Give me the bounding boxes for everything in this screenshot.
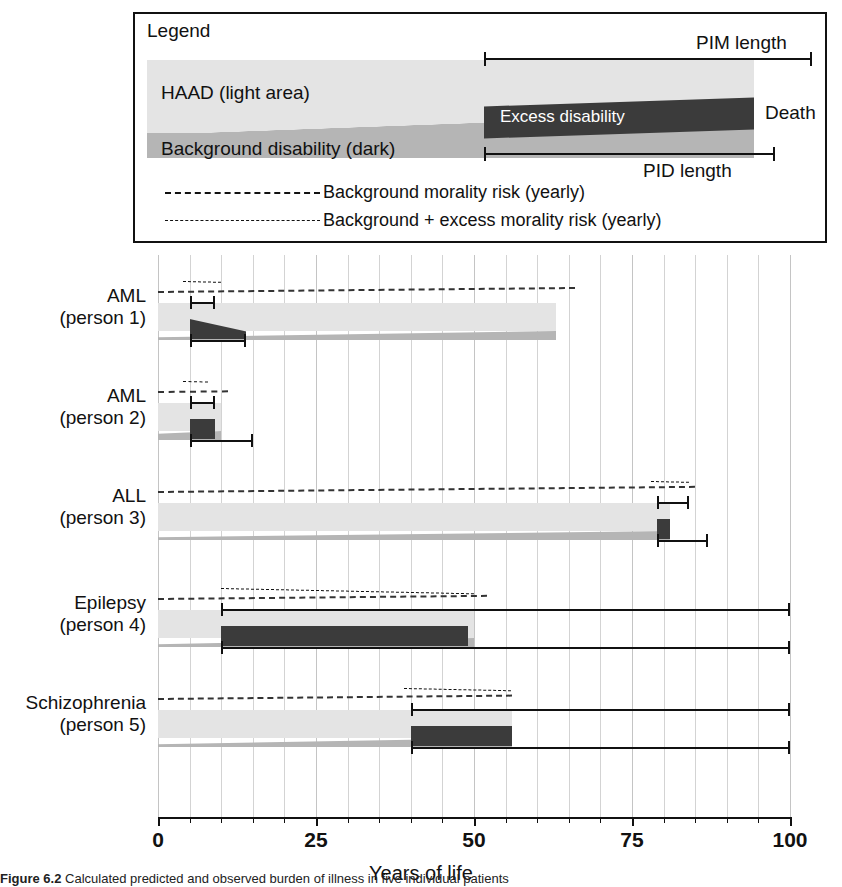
x-axis-tick	[158, 817, 160, 826]
x-axis-tick	[600, 817, 601, 823]
bracket-line	[221, 647, 790, 649]
bracket-line	[221, 609, 790, 611]
pid-length-bracket	[411, 741, 790, 754]
gridline	[790, 255, 791, 817]
bracket-line	[190, 302, 215, 304]
legend-title: Legend	[147, 20, 210, 42]
haad-band	[158, 503, 670, 531]
y-axis-label-3: ALL(person 3)	[59, 485, 146, 529]
x-axis-tick	[316, 817, 318, 826]
x-axis-tick	[411, 817, 412, 823]
x-axis-tick-label: 0	[152, 828, 164, 852]
pim-length-bracket	[657, 496, 689, 509]
pim-length-bracket	[221, 603, 790, 616]
x-axis-tick	[190, 817, 191, 823]
bracket-line	[411, 747, 790, 749]
bracket-line	[657, 540, 708, 542]
legend-death-label: Death	[765, 102, 816, 124]
x-axis-tick	[727, 817, 728, 823]
x-axis-tick	[221, 817, 222, 823]
x-axis-tick	[664, 817, 665, 823]
x-axis-tick	[253, 817, 254, 823]
pid-length-bracket	[657, 534, 708, 547]
figure-number: Figure 6.2	[0, 871, 61, 886]
x-axis-tick	[569, 817, 570, 823]
legend-background-disability-label: Background disability (dark)	[161, 138, 395, 160]
y-axis-label-2: AML(person 2)	[59, 385, 146, 429]
background-disability-band	[158, 531, 670, 540]
x-axis-tick-label: 25	[304, 828, 327, 852]
x-axis-tick	[537, 817, 538, 823]
bracket-cap-right	[213, 396, 215, 409]
bracket-line	[190, 340, 247, 342]
legend-background-risk-label: Background morality risk (yearly)	[323, 182, 585, 203]
legend-haad-label: HAAD (light area)	[161, 82, 310, 104]
x-axis-tick	[632, 817, 634, 826]
x-axis-tick-label: 100	[772, 828, 807, 852]
bracket-line	[484, 153, 775, 155]
legend-pid-length-label: PID length	[643, 160, 732, 182]
x-axis-tick	[284, 817, 285, 823]
legend-box: Legend Excess disability HAAD (light are…	[133, 12, 827, 243]
y-axis-label-line1: ALL	[112, 485, 146, 506]
legend-background-risk-line	[165, 192, 320, 194]
bracket-cap-right	[706, 534, 708, 547]
figure-caption-text: Calculated predicted and observed burden…	[65, 871, 509, 886]
total-morality-risk-line	[183, 381, 208, 383]
x-axis-tick	[348, 817, 349, 823]
background-morality-risk-line	[158, 595, 487, 600]
legend-pim-bracket	[484, 52, 812, 66]
legend-total-risk-line	[165, 220, 320, 221]
x-axis-tick	[695, 817, 696, 823]
bracket-cap-right	[251, 434, 253, 447]
background-morality-risk-line	[158, 695, 512, 700]
x-axis-tick	[474, 817, 476, 826]
bracket-cap-right	[773, 147, 775, 161]
y-axis-label-line2: (person 4)	[59, 614, 146, 636]
pim-length-bracket	[411, 703, 790, 716]
bracket-line	[657, 502, 689, 504]
plot-area	[158, 255, 790, 817]
x-axis-tick	[790, 817, 792, 826]
bracket-cap-right	[788, 703, 790, 716]
bracket-line	[190, 402, 215, 404]
background-morality-risk-line	[158, 486, 695, 493]
gridline	[758, 255, 759, 817]
x-axis-tick	[379, 817, 380, 823]
y-axis-label-line2: (person 5)	[26, 714, 146, 736]
x-axis-tick-label: 75	[620, 828, 643, 852]
y-axis-label-line1: Epilepsy	[74, 592, 146, 613]
x-axis-tick-label: 50	[462, 828, 485, 852]
y-axis-label-line2: (person 2)	[59, 407, 146, 429]
legend-pim-length-label: PIM length	[696, 32, 787, 54]
gridline	[727, 255, 728, 817]
y-axis-label-line1: AML	[107, 285, 146, 306]
x-axis-tick	[758, 817, 759, 823]
bracket-cap-right	[213, 296, 215, 309]
x-axis-tick	[506, 817, 507, 823]
legend-pid-bracket	[484, 147, 775, 161]
bracket-cap-right	[788, 641, 790, 654]
pid-length-bracket	[190, 434, 253, 447]
pim-length-bracket	[190, 396, 215, 409]
pid-length-bracket	[221, 641, 790, 654]
bracket-cap-right	[244, 334, 246, 347]
figure-caption: Figure 6.2 Calculated predicted and obse…	[0, 871, 842, 886]
y-axis-label-line1: Schizophrenia	[26, 692, 146, 713]
y-axis-label-5: Schizophrenia(person 5)	[26, 692, 146, 736]
bracket-cap-right	[788, 741, 790, 754]
bracket-line	[484, 58, 812, 60]
pid-length-bracket	[190, 334, 247, 347]
legend-excess-disability-label: Excess disability	[484, 102, 754, 127]
chart: AML(person 1)AML(person 2)ALL(person 3)E…	[0, 250, 842, 887]
bracket-line	[411, 709, 790, 711]
x-axis-tick	[442, 817, 443, 823]
total-morality-risk-line	[651, 481, 689, 483]
pim-length-bracket	[190, 296, 215, 309]
bracket-cap-right	[810, 52, 812, 66]
y-axis-label-line2: (person 3)	[59, 507, 146, 529]
y-axis-label-line1: AML	[107, 385, 146, 406]
bracket-cap-right	[687, 496, 689, 509]
background-morality-risk-line	[158, 390, 228, 393]
bracket-cap-right	[788, 603, 790, 616]
